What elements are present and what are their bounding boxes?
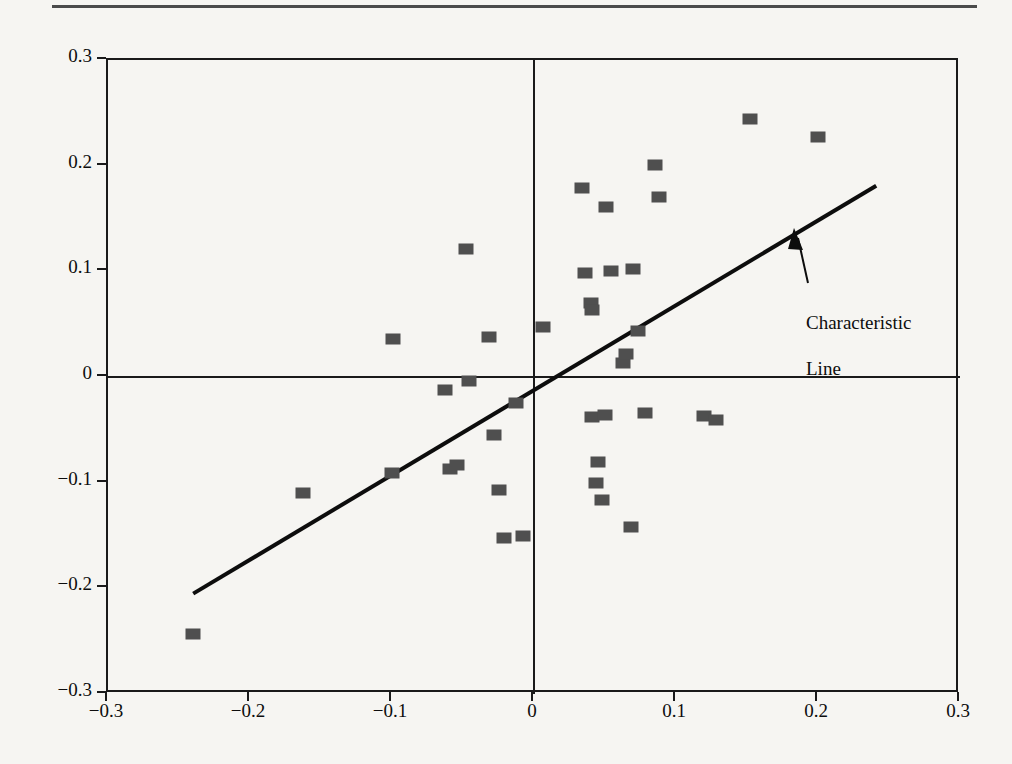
y-axis-tick [97,374,106,376]
y-axis-tick [97,691,106,693]
y-axis-tick-label: 0.1 [22,256,92,278]
x-axis-tick-label: 0.1 [644,700,704,722]
x-axis-tick-label: −0.2 [218,700,278,722]
y-axis-tick-label: 0 [22,362,92,384]
annotation-line-2: Line [806,358,841,379]
y-axis-tick-label: 0.3 [22,45,92,67]
x-axis-tick-label: 0 [502,700,562,722]
characteristic-line-annotation: Characteristic Line [806,288,912,380]
x-axis-tick-label: −0.3 [76,700,136,722]
y-axis-tick [97,57,106,59]
y-axis-tick [97,480,106,482]
figure-canvas: Characteristic Line −0.3−0.2−0.100.10.20… [0,0,1012,764]
y-axis-tick-label: −0.2 [22,573,92,595]
x-axis-tick-label: 0.3 [928,700,988,722]
y-axis-tick [97,585,106,587]
y-axis-tick [97,268,106,270]
y-axis-tick-label: −0.3 [22,679,92,701]
y-axis-tick-label: −0.1 [22,468,92,490]
annotation-line-1: Characteristic [806,312,912,333]
y-axis-tick-label: 0.2 [22,151,92,173]
x-axis-tick-label: −0.1 [360,700,420,722]
y-axis-tick [97,163,106,165]
annotation-arrow [0,0,1012,764]
x-axis-tick-label: 0.2 [786,700,846,722]
